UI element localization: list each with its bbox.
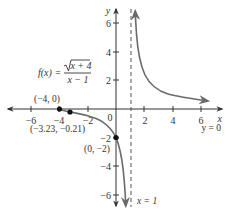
y-tick-label: 2 xyxy=(106,75,111,86)
y-tick-label: −4 xyxy=(100,161,111,172)
y-tick-label: −2 xyxy=(100,133,111,144)
y-tick-label: 4 xyxy=(106,47,111,58)
origin-label: 0 xyxy=(108,112,113,123)
function-formula: f(x) = x + 4 x − 1 xyxy=(38,60,92,85)
point-y-intercept xyxy=(113,135,118,140)
y-tick-label: −6 xyxy=(100,190,111,201)
horizontal-asymptote-label: y = 0 xyxy=(201,123,221,133)
formula-numerator: x + 4 xyxy=(69,60,91,71)
x-tick-label: 2 xyxy=(143,115,148,126)
point-x-intercept xyxy=(57,106,62,111)
function-graph: −6 −4 −2 2 4 6 0 6 4 2 −2 −4 −6 x y x = … xyxy=(0,0,230,211)
y-axis-label: y xyxy=(105,5,111,16)
formula-lhs: f(x) = xyxy=(38,67,61,79)
point-label-y-intercept: (0, −2) xyxy=(84,144,110,155)
formula-denominator: x − 1 xyxy=(66,74,88,85)
vertical-asymptote-label: x = 1 xyxy=(136,196,157,206)
curve-right-branch xyxy=(135,11,208,101)
x-tick-label: 4 xyxy=(171,115,176,126)
point-local xyxy=(67,109,72,114)
y-tick-label: 6 xyxy=(106,18,111,29)
graph-canvas: −6 −4 −2 2 4 6 0 6 4 2 −2 −4 −6 x y x = … xyxy=(0,0,230,211)
point-label-x-intercept: (−4, 0) xyxy=(34,94,60,105)
point-label-local: (−3.23, −0.21) xyxy=(30,124,85,135)
